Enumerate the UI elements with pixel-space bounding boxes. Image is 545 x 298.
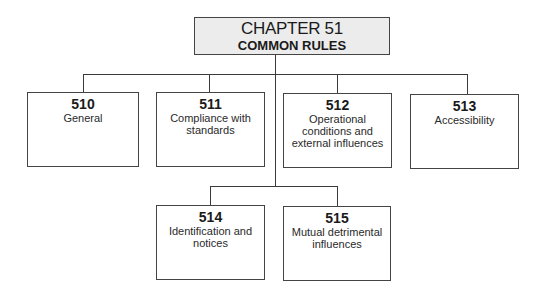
connector-515: [337, 186, 338, 206]
connector-513: [467, 74, 468, 94]
section-box-511: 511 Compliance with standards: [156, 92, 265, 167]
connector-512: [337, 74, 338, 93]
bottom-bus-connector: [210, 186, 338, 187]
section-label: General: [28, 112, 138, 124]
section-box-515: 515 Mutual detrimental influences: [283, 206, 391, 281]
section-box-510: 510 General: [27, 92, 139, 167]
section-box-512: 512 Operational conditions and external …: [283, 93, 392, 168]
top-bus-connector: [83, 74, 468, 75]
section-label: Identification and notices: [157, 225, 264, 249]
chapter-subtitle: COMMON RULES: [195, 38, 389, 53]
chapter-title: CHAPTER 51: [195, 20, 389, 38]
chapter-title-box: CHAPTER 51 COMMON RULES: [194, 17, 390, 55]
section-number: 512: [284, 98, 391, 113]
section-number: 513: [411, 99, 518, 114]
section-box-513: 513 Accessibility: [410, 94, 519, 169]
section-number: 514: [157, 210, 264, 225]
section-number: 511: [157, 97, 264, 112]
section-number: 510: [28, 97, 138, 112]
section-label: Accessibility: [411, 114, 518, 126]
connector-510: [83, 74, 84, 92]
section-box-514: 514 Identification and notices: [156, 205, 265, 280]
section-number: 515: [284, 211, 390, 226]
section-label: Operational conditions and external infl…: [284, 113, 391, 149]
connector-514: [210, 186, 211, 205]
section-label: Mutual detrimental influences: [284, 226, 390, 250]
section-label: Compliance with standards: [157, 112, 264, 136]
connector-511: [209, 74, 210, 92]
